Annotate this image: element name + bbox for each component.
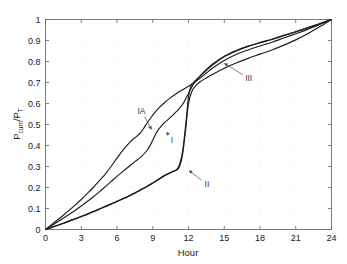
y-title-sub2: T — [17, 108, 24, 112]
x-tick-label: 15 — [219, 233, 229, 243]
x-tick-label: 9 — [150, 233, 155, 243]
y-tick-label: 0.6 — [28, 99, 41, 109]
curve-label-II: II — [205, 179, 210, 189]
y-tick-label: 0 — [35, 225, 40, 235]
y-tick-label: 0.1 — [28, 204, 41, 214]
x-tick-label: 12 — [183, 233, 193, 243]
y-tick-label: 0.4 — [28, 141, 41, 151]
y-tick-label: 0.5 — [28, 120, 41, 130]
curve-label-IA: IA — [137, 106, 145, 116]
curve-label-I: I — [171, 135, 173, 145]
y-tick-label: 0.2 — [28, 183, 41, 193]
curve-label-III: III — [245, 73, 252, 83]
y-tick-label: 0.3 — [28, 162, 41, 172]
y-tick-label: 0.8 — [28, 57, 41, 67]
figure-container: IAIIIIII 03691215182124 00.10.20.30.40.5… — [0, 0, 347, 264]
x-tick-label: 0 — [43, 233, 48, 243]
x-tick-label: 24 — [326, 233, 336, 243]
x-axis-title: Hour — [178, 247, 199, 258]
x-tick-label: 3 — [79, 233, 84, 243]
y-tick-label: 0.9 — [28, 36, 41, 46]
y-title-sub1: cum — [17, 121, 24, 133]
y-tick-label: 0.7 — [28, 78, 41, 88]
line-chart: IAIIIIII 03691215182124 00.10.20.30.40.5… — [0, 0, 347, 264]
x-tick-label: 18 — [255, 233, 265, 243]
x-tick-label: 6 — [114, 233, 119, 243]
x-tick-label: 21 — [291, 233, 301, 243]
y-tick-label: 1 — [35, 15, 40, 25]
y-title-slash: /P — [11, 112, 22, 121]
